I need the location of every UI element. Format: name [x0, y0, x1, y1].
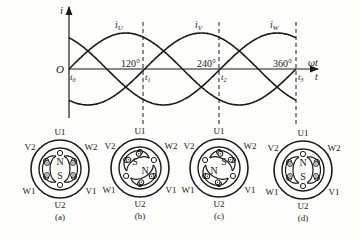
terminal-v2-label: V2: [25, 142, 36, 152]
slot-conductor-icon: [300, 183, 305, 188]
south-pole-label: S: [300, 171, 306, 182]
t1-label: t1: [145, 72, 151, 83]
slot-conductor-icon: [300, 151, 305, 156]
terminal-v2-label: V2: [184, 141, 195, 151]
north-pole-label: N: [210, 165, 217, 176]
terminal-w1-label: W1: [266, 187, 279, 197]
stator-diagram-d: NSU1U2V2W2W1V1(d): [266, 128, 341, 223]
terminal-u2-label: U2: [135, 199, 146, 209]
stator-diagram-a: NSU1U2V2W2W1V1(a): [23, 127, 98, 222]
terminal-u1-label: U1: [298, 128, 309, 138]
slot-conductor-icon: [57, 150, 62, 155]
waveform-labels: i O iU iV iW 120° 240° 360° ωt t t0 t1 t…: [56, 4, 318, 83]
slot-conductor-icon: [124, 173, 129, 178]
terminal-u1-label: U1: [214, 126, 225, 136]
tick-240: 240°: [197, 58, 216, 69]
iv-label: iV: [195, 19, 203, 32]
terminal-v1-label: V1: [86, 186, 97, 196]
t2-label: t2: [221, 72, 227, 83]
terminal-w2-label: W2: [165, 141, 178, 151]
terminal-u1-label: U1: [135, 126, 146, 136]
south-pole-label: S: [132, 156, 138, 167]
stator-diagrams: NSU1U2V2W2W1V1(a)NSU1U2V2W2W1V1(b)NSU1U2…: [23, 126, 341, 223]
terminal-w1-label: W1: [182, 185, 195, 195]
north-pole-label: N: [141, 165, 148, 176]
south-pole-label: S: [57, 170, 63, 181]
north-pole-label: N: [56, 156, 63, 167]
subfigure-caption: (b): [135, 211, 146, 221]
north-pole-label: N: [299, 157, 306, 168]
t3-label: t3: [298, 72, 304, 83]
slot-conductor-icon: [151, 157, 156, 162]
south-pole-label: S: [221, 156, 227, 167]
subfigure-caption: (d): [298, 213, 309, 223]
iw-label: iW: [270, 19, 280, 32]
stator-diagram-b: NSU1U2V2W2W1V1(b): [103, 126, 178, 221]
terminal-w2-label: W2: [328, 143, 341, 153]
tick-360: 360°: [273, 58, 292, 69]
terminal-v2-label: V2: [268, 143, 279, 153]
terminal-w1-label: W1: [103, 185, 116, 195]
slot-conductor-icon: [57, 182, 62, 187]
terminal-u1-label: U1: [55, 127, 66, 137]
iu-label: iU: [115, 19, 124, 32]
terminal-v1-label: V1: [166, 185, 177, 195]
y-axis-label: i: [60, 4, 63, 16]
x-axis-label-t: t: [315, 71, 318, 82]
tick-120: 120°: [121, 58, 140, 69]
x-axis-label-omega-t: ωt: [308, 57, 318, 68]
terminal-u2-label: U2: [55, 200, 66, 210]
t0-label: t0: [70, 72, 76, 83]
terminal-u2-label: U2: [298, 201, 309, 211]
stator-diagram-c: NSU1U2V2W2W1V1(c): [182, 126, 257, 221]
terminal-v2-label: V2: [105, 141, 116, 151]
terminal-u2-label: U2: [214, 199, 225, 209]
slot-conductor-icon: [203, 157, 208, 162]
terminal-v1-label: V1: [329, 187, 340, 197]
slot-conductor-icon: [230, 173, 235, 178]
origin-label: O: [56, 63, 64, 75]
terminal-w2-label: W2: [85, 142, 98, 152]
subfigure-caption: (a): [55, 212, 65, 222]
diagram-canvas: i O iU iV iW 120° 240° 360° ωt t t0 t1 t…: [0, 0, 361, 240]
terminal-v1-label: V1: [245, 185, 256, 195]
rotating-field-diagram: i O iU iV iW 120° 240° 360° ωt t t0 t1 t…: [0, 0, 361, 240]
subfigure-caption: (c): [214, 211, 224, 221]
terminal-w1-label: W1: [23, 186, 36, 196]
terminal-w2-label: W2: [244, 141, 257, 151]
